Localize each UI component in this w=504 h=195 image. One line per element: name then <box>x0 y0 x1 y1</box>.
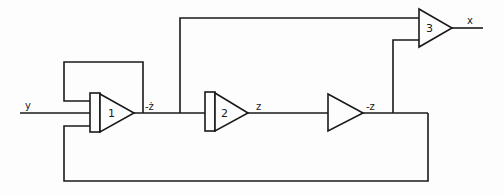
amp3-triangle <box>419 9 452 47</box>
amp2-triangle <box>215 93 248 131</box>
amp2-integrator-capacitor <box>205 92 215 131</box>
amp1-integrator-capacitor <box>90 93 100 132</box>
amp1-triangle <box>100 94 134 132</box>
amp2-label: 2 <box>221 107 228 120</box>
amplifier-2: 2 <box>205 92 248 131</box>
inverter-amplifier <box>328 94 363 131</box>
amp3-label: 3 <box>426 22 433 35</box>
label-neg-z-dot: -ż <box>145 101 154 112</box>
label-z: z <box>256 101 261 112</box>
block-diagram: 1 2 3 y -ż z -z x <box>0 0 504 195</box>
amp1-label: 1 <box>108 107 115 120</box>
main-feedback-wire <box>64 113 428 181</box>
amplifier-3: 3 <box>419 9 452 47</box>
amplifier-1: 1 <box>90 93 134 132</box>
label-output-x: x <box>467 15 473 26</box>
inverter-to-amp3-wire <box>393 40 419 113</box>
label-neg-z: -z <box>366 101 375 112</box>
label-input-y: y <box>25 100 31 111</box>
inverter-triangle <box>328 94 363 131</box>
